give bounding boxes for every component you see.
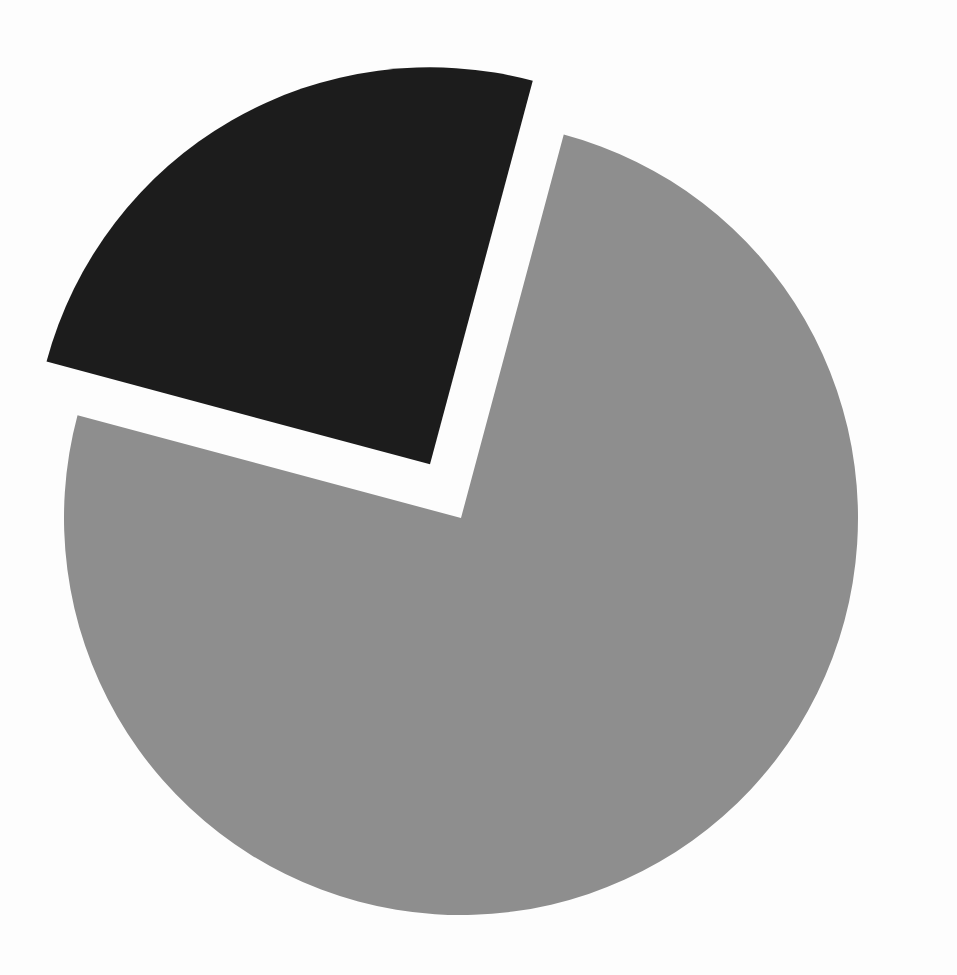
pie-chart-figure	[0, 0, 957, 975]
pie-chart-canvas	[0, 0, 957, 975]
